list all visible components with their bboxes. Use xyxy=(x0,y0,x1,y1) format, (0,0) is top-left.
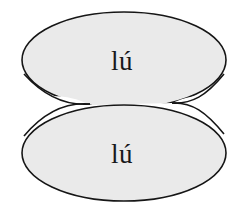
lower-ellipse-label: lú xyxy=(111,139,133,169)
upper-ellipse-label: lú xyxy=(111,46,133,76)
two-ellipse-diagram: lú lú xyxy=(0,0,243,215)
diagram-canvas: lú lú xyxy=(0,0,243,215)
